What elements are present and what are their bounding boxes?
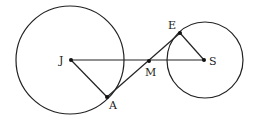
segment-ae <box>107 33 180 97</box>
segment-es <box>180 33 204 60</box>
point-s <box>202 58 206 62</box>
geometry-diagram: J A M E S <box>0 0 257 118</box>
label-m: M <box>145 66 156 79</box>
label-j: J <box>58 54 63 67</box>
point-e <box>178 31 182 35</box>
point-j <box>69 58 73 62</box>
label-s: S <box>209 55 217 68</box>
point-m <box>147 59 151 63</box>
segment-ja <box>71 60 107 97</box>
label-a: A <box>108 99 118 112</box>
label-e: E <box>168 19 176 32</box>
